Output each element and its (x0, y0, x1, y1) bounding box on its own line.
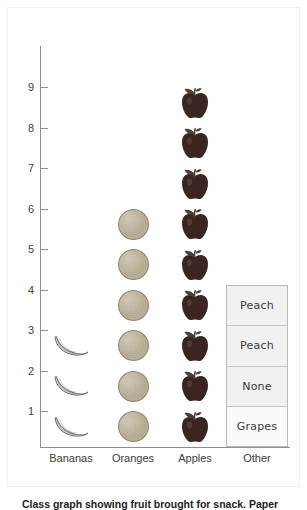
pictograph-page: 9 8 7 6 5 4 3 2 (0, 0, 307, 510)
y-tick-label: 9 (28, 82, 34, 93)
y-tick-label: 7 (28, 163, 34, 174)
apple-icon (164, 164, 226, 205)
orange-icon (118, 411, 149, 442)
orange-icon (118, 371, 149, 402)
y-tick-label: 8 (28, 122, 34, 133)
orange-icon (118, 249, 149, 280)
category-label-oranges: Oranges (102, 452, 164, 464)
orange-icon (118, 330, 149, 361)
y-tick-label: 6 (28, 203, 34, 214)
y-tick-label: 3 (28, 325, 34, 336)
y-tick-mark (41, 290, 48, 291)
y-tick-7: 7 (40, 168, 48, 169)
other-cell: None (227, 367, 287, 407)
apple-icon (164, 245, 226, 286)
category-label-other: Other (226, 452, 288, 464)
y-tick-label: 1 (28, 406, 34, 417)
column-other-boxes: Peach Peach None Grapes (226, 285, 288, 447)
y-tick-label: 2 (28, 365, 34, 376)
banana-icon (40, 326, 102, 367)
banana-icon (40, 407, 102, 448)
orange-icon (118, 290, 149, 321)
apple-icon (164, 326, 226, 367)
y-tick-6: 6 (40, 209, 48, 210)
plot-area: 9 8 7 6 5 4 3 2 (40, 40, 290, 448)
apple-icon (164, 285, 226, 326)
y-tick-mark (41, 87, 48, 88)
x-axis-line (40, 447, 290, 448)
y-tick-5: 5 (40, 249, 48, 250)
apple-icon (164, 204, 226, 245)
figure-caption: Class graph showing fruit brought for sn… (22, 498, 292, 510)
column-apples (164, 83, 226, 448)
apple-icon (164, 123, 226, 164)
y-tick-label: 5 (28, 244, 34, 255)
column-oranges (102, 204, 164, 447)
orange-icon (102, 204, 164, 245)
x-axis-category-labels: Bananas Oranges Apples Other (40, 452, 290, 470)
y-tick-label: 4 (28, 284, 34, 295)
y-tick-9: 9 (40, 87, 48, 88)
orange-icon (102, 407, 164, 448)
category-label-bananas: Bananas (40, 452, 102, 464)
orange-icon (102, 245, 164, 286)
orange-icon (102, 285, 164, 326)
category-label-apples: Apples (164, 452, 226, 464)
other-cell: Peach (227, 326, 287, 366)
orange-icon (102, 326, 164, 367)
column-bananas (40, 326, 102, 448)
other-cell: Peach (227, 286, 287, 326)
y-tick-8: 8 (40, 128, 48, 129)
y-tick-mark (41, 249, 48, 250)
y-tick-mark (41, 128, 48, 129)
apple-icon (164, 366, 226, 407)
orange-icon (102, 366, 164, 407)
orange-icon (118, 209, 149, 240)
y-tick-mark (41, 209, 48, 210)
apple-icon (164, 83, 226, 124)
banana-icon (40, 366, 102, 407)
apple-icon (164, 407, 226, 448)
y-tick-mark (41, 168, 48, 169)
other-cell: Grapes (227, 407, 287, 446)
y-tick-4: 4 (40, 290, 48, 291)
